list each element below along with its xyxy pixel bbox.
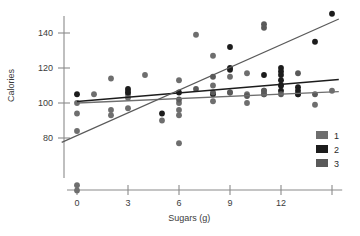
data-point (176, 77, 182, 83)
data-point (108, 112, 114, 118)
data-point (278, 77, 284, 83)
data-point (125, 90, 131, 96)
data-point (227, 44, 233, 50)
legend-swatch-1 (316, 131, 328, 139)
legend-label-3: 3 (334, 159, 339, 169)
data-point (176, 140, 182, 146)
data-point (210, 98, 216, 104)
y-tick-label-100: 100 (38, 98, 53, 108)
data-point (329, 11, 335, 17)
data-point (176, 107, 182, 113)
data-point (74, 91, 80, 97)
data-point (142, 72, 148, 78)
legend-swatch-3 (316, 159, 328, 167)
x-tick-label-12: 12 (276, 198, 286, 208)
y-tick-label-140: 140 (38, 28, 53, 38)
y-axis-title: Calories (6, 68, 16, 102)
data-point (261, 25, 267, 31)
data-point (312, 102, 318, 108)
x-axis-title: Sugars (g) (168, 213, 210, 223)
legend: 123 (316, 131, 339, 169)
legend-swatch-2 (316, 145, 328, 153)
data-point (210, 83, 216, 89)
data-point (74, 182, 80, 188)
data-point (312, 39, 318, 45)
y-tick-label-80: 80 (43, 133, 53, 143)
series-2 (74, 11, 335, 117)
data-point (74, 188, 80, 194)
data-point (244, 100, 250, 106)
fit-line-1 (77, 92, 339, 103)
x-tick-label-0: 0 (74, 198, 79, 208)
data-point (261, 72, 267, 78)
series-1 (74, 32, 335, 194)
data-point (159, 118, 165, 124)
data-point (108, 107, 114, 113)
data-point (159, 111, 165, 117)
x-tick-label-9: 9 (227, 198, 232, 208)
data-point (227, 74, 233, 80)
data-point (193, 32, 199, 38)
fit-line-3 (62, 19, 339, 142)
x-tick-label-6: 6 (176, 198, 181, 208)
legend-label-1: 1 (334, 131, 339, 141)
data-point (295, 91, 301, 97)
y-tick-label-120: 120 (38, 63, 53, 73)
data-point (278, 72, 284, 78)
data-point (125, 105, 131, 111)
data-point (74, 128, 80, 134)
data-point (74, 111, 80, 117)
plot-area: 80100120140Calories036912Sugars (g)123 (0, 0, 360, 236)
data-point (244, 70, 250, 76)
data-point (91, 91, 97, 97)
data-point (329, 88, 335, 94)
data-point (176, 112, 182, 118)
data-point (108, 76, 114, 82)
legend-label-2: 2 (334, 145, 339, 155)
data-point (210, 53, 216, 59)
data-point (176, 97, 182, 103)
data-point (295, 70, 301, 76)
data-point (227, 90, 233, 96)
x-tick-label-3: 3 (125, 198, 130, 208)
scatter-chart: 80100120140Calories036912Sugars (g)123 (0, 0, 360, 236)
